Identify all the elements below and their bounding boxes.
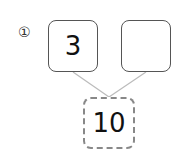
part-box-2-blank[interactable]	[121, 20, 171, 72]
part-box-1: 3	[48, 20, 98, 72]
total-box: 10	[83, 97, 135, 149]
